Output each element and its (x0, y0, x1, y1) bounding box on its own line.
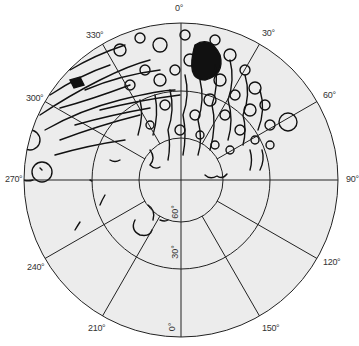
latitude-label: 0° (167, 323, 177, 332)
longitude-label: 0° (175, 3, 183, 13)
longitude-label: 330° (86, 30, 103, 40)
latitude-label: 30° (170, 245, 180, 259)
polar-map (0, 0, 359, 346)
latitude-label: 60° (170, 205, 180, 219)
longitude-label: 270° (5, 174, 22, 184)
longitude-label: 300° (26, 93, 43, 103)
longitude-label: 240° (27, 262, 44, 272)
longitude-label: 120° (323, 257, 340, 267)
longitude-label: 60° (323, 90, 336, 100)
longitude-label: 30° (262, 28, 275, 38)
longitude-label: 210° (88, 323, 105, 333)
longitude-label: 150° (262, 323, 279, 333)
longitude-label: 90° (346, 174, 359, 184)
